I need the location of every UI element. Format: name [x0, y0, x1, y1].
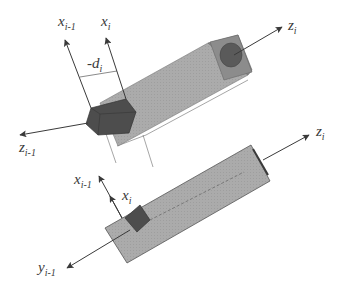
label-z-i-minus-1: zi-1 [18, 139, 36, 158]
label-x-i-top: xi [100, 13, 111, 32]
offset-dimension-line [80, 71, 117, 77]
z-i-minus-1-axis [20, 123, 88, 135]
z-i-axis [234, 27, 282, 55]
label-offset-d-i: -di [87, 55, 103, 74]
label-x-i-bottom: xi [121, 187, 132, 206]
label-x-i-minus-1-bottom: xi-1 [73, 171, 92, 190]
joint-i-circle [220, 43, 242, 67]
top-view: xi-1 xi -di zi-1 zi [18, 13, 297, 167]
x-i-axis [106, 38, 126, 99]
dh-frame-diagram: xi-1 xi -di zi-1 zi xi-1 xi yi-1 zi [0, 0, 342, 299]
joint-i-minus-1-block [86, 99, 136, 135]
label-z-i-bottom: zi [315, 123, 325, 142]
label-z-i-top: zi [287, 17, 297, 36]
bottom-view: xi-1 xi yi-1 zi [36, 123, 325, 278]
label-x-i-minus-1-top: xi-1 [57, 13, 76, 32]
x-i-axis-bottom [110, 196, 122, 218]
x-i-minus-1-axis [65, 40, 91, 108]
z-i-axis-bottom [263, 135, 309, 160]
label-y-i-minus-1: yi-1 [36, 259, 56, 278]
